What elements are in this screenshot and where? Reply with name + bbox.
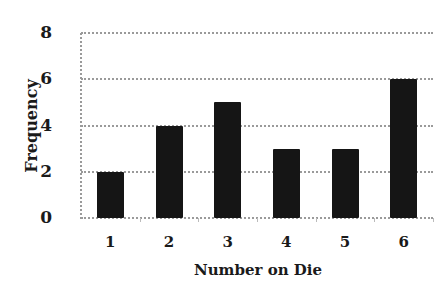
x-tick-mark bbox=[198, 218, 199, 222]
x-tick-label: 2 bbox=[154, 233, 184, 251]
x-tick-label: 6 bbox=[389, 233, 419, 251]
x-tick-mark bbox=[257, 218, 258, 222]
bar-chart: 02468 123456 Frequency Number on Die bbox=[0, 0, 446, 291]
bar-3 bbox=[214, 102, 241, 218]
x-tick-label: 1 bbox=[95, 233, 125, 251]
gridline bbox=[81, 125, 433, 127]
gridline bbox=[81, 32, 433, 34]
x-tick-mark bbox=[374, 218, 375, 222]
x-tick-label: 4 bbox=[271, 233, 301, 251]
x-axis-label: Number on Die bbox=[194, 261, 322, 279]
x-tick-mark bbox=[316, 218, 317, 222]
bar-4 bbox=[273, 149, 300, 218]
gridline bbox=[81, 78, 433, 80]
bar-5 bbox=[332, 149, 359, 218]
bar-1 bbox=[97, 172, 124, 218]
bar-2 bbox=[156, 126, 183, 219]
x-tick-label: 3 bbox=[213, 233, 243, 251]
bar-6 bbox=[390, 79, 417, 218]
y-tick-label: 0 bbox=[22, 207, 52, 227]
x-tick-label: 5 bbox=[330, 233, 360, 251]
gridline bbox=[81, 171, 433, 173]
x-tick-mark bbox=[140, 218, 141, 222]
y-axis-label: Frequency bbox=[22, 79, 41, 172]
y-tick-label: 8 bbox=[22, 22, 52, 42]
x-tick-mark bbox=[433, 218, 434, 222]
